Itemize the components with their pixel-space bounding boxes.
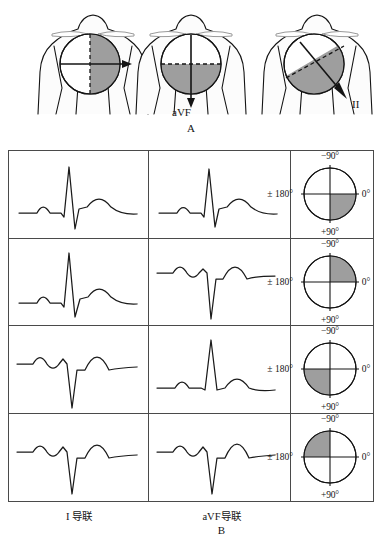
degree-label-left: ± 180° xyxy=(267,364,293,374)
degree-label-top: −90° xyxy=(321,326,339,336)
axis-compass: −90° +90° 0° xyxy=(291,327,369,411)
ecg-cell-lead-I xyxy=(9,151,149,238)
degree-label-bottom: +90° xyxy=(321,402,339,412)
ecg-cell-lead-I xyxy=(9,239,149,326)
torso-diagram-lead-II: II xyxy=(256,2,378,120)
axis-cell: ± 180° −90° +90° 0° xyxy=(291,414,373,502)
degree-label-right: 0° xyxy=(362,364,370,374)
degree-label-right: 0° xyxy=(362,277,370,287)
ecg-cell-lead-I xyxy=(9,414,149,502)
degree-label-left: ± 180° xyxy=(267,452,293,462)
degree-label-top: −90° xyxy=(321,414,339,424)
degree-label-bottom: +90° xyxy=(321,315,339,325)
axis-compass: −90° +90° 0° xyxy=(291,415,369,499)
degree-label-top: −90° xyxy=(321,151,339,161)
degree-label-left: ± 180° xyxy=(267,277,293,287)
figure-root: I xyxy=(0,0,382,543)
panel-b-letter: B xyxy=(150,524,293,536)
table-row: ± 180° −90° +90° 0° xyxy=(9,151,373,239)
degree-label-bottom: +90° xyxy=(321,227,339,237)
ecg-cell-lead-I xyxy=(9,326,149,413)
table-row: ± 180° −90° +90° 0° xyxy=(9,414,373,502)
degree-label-right: 0° xyxy=(362,452,370,462)
axis-compass: −90° +90° 0° xyxy=(291,152,369,236)
degree-label-left: ± 180° xyxy=(267,189,293,199)
axis-compass: −90° +90° 0° xyxy=(291,240,369,324)
panel-a: I xyxy=(0,0,382,140)
axis-cell: ± 180° −90° +90° 0° xyxy=(291,326,373,413)
table-row: ± 180° −90° +90° 0° xyxy=(9,239,373,327)
table-row: ± 180° −90° +90° 0° xyxy=(9,326,373,414)
panel-a-letter: A xyxy=(0,122,382,134)
axis-cell: ± 180° −90° +90° 0° xyxy=(291,239,373,326)
column-caption-lead-I: I 导联 xyxy=(8,508,150,523)
degree-label-top: −90° xyxy=(321,239,339,249)
degree-label-bottom: +90° xyxy=(321,490,339,500)
degree-label-right: 0° xyxy=(362,189,370,199)
column-caption-aVF: aVF导联 xyxy=(150,508,293,523)
axis-cell: ± 180° −90° +90° 0° xyxy=(291,151,373,238)
lead-II-arrow-label: II xyxy=(352,98,359,110)
lead-aVF-arrow-label: aVF xyxy=(172,106,191,118)
torso-diagram-lead-aVF: aVF xyxy=(130,2,252,120)
panel-b-table: ± 180° −90° +90° 0° xyxy=(8,150,374,502)
